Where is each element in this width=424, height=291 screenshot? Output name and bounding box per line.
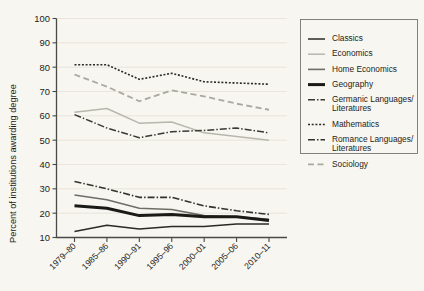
y-axis-title: Percent of institutions awarding degree (8, 84, 18, 243)
y-tick-label: 90 (40, 37, 50, 48)
y-tick-label: 30 (40, 183, 50, 194)
y-tick-label: 100 (34, 13, 50, 24)
legend-label-line2[interactable]: Literatures (332, 103, 371, 113)
y-tick-label: 40 (40, 159, 50, 170)
y-tick-label: 70 (40, 86, 50, 97)
chart-figure: Percent of institutions awarding degree … (0, 0, 424, 291)
legend-label[interactable]: Sociology (332, 159, 369, 169)
legend-label[interactable]: Mathematics (332, 119, 379, 129)
legend-label[interactable]: Germanic Languages/ (332, 94, 414, 104)
legend-label-line2[interactable]: Literatures (332, 143, 371, 153)
legend-label[interactable]: Economics (332, 48, 373, 58)
legend-label[interactable]: Romance Languages/ (332, 134, 414, 144)
legend-label[interactable]: Home Economics (332, 64, 397, 74)
y-tick-label: 80 (40, 62, 50, 73)
y-tick-label: 10 (40, 232, 50, 243)
y-axis-title-text: Percent of institutions awarding degree (8, 84, 18, 243)
line-chart: Percent of institutions awarding degree … (0, 0, 424, 291)
y-tick-label: 50 (40, 135, 50, 146)
legend-label[interactable]: Geography (332, 79, 374, 89)
legend-label[interactable]: Classics (332, 33, 363, 43)
y-tick-label: 60 (40, 110, 50, 121)
y-tick-label: 20 (40, 208, 50, 219)
